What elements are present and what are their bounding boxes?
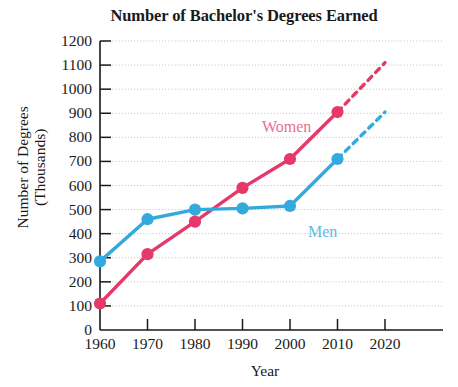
- series-projection-women: [338, 63, 386, 112]
- data-point-women: [189, 216, 201, 228]
- y-tick-label: 1200: [30, 33, 92, 49]
- data-point-women: [284, 153, 296, 165]
- x-tick-label: 2020: [355, 336, 415, 352]
- series-line-men: [100, 159, 338, 261]
- y-tick-label: 400: [30, 226, 92, 242]
- y-tick-label: 700: [30, 153, 92, 169]
- data-point-women: [331, 106, 343, 118]
- gridlines: [100, 41, 443, 306]
- y-tick-label: 200: [30, 274, 92, 290]
- series-label-men: Men: [308, 224, 337, 240]
- series-projection-men: [338, 112, 386, 159]
- data-point-women: [141, 248, 153, 260]
- data-point-men: [331, 153, 343, 165]
- y-tick-label: 800: [30, 129, 92, 145]
- data-point-women: [94, 297, 106, 309]
- data-point-men: [236, 202, 248, 214]
- y-tick-label: 100: [30, 298, 92, 314]
- data-point-men: [141, 213, 153, 225]
- data-point-women: [236, 182, 248, 194]
- y-tick-label: 1100: [30, 57, 92, 73]
- y-tick-label: 1000: [30, 81, 92, 97]
- chart-page: Number of Bachelor's Degrees Earned Numb…: [0, 0, 458, 387]
- data-point-men: [94, 255, 106, 267]
- y-tick-label: 300: [30, 250, 92, 266]
- y-tick-label: 600: [30, 178, 92, 194]
- data-point-men: [284, 200, 296, 212]
- data-point-men: [189, 203, 201, 215]
- series-label-women: Women: [262, 119, 311, 135]
- y-tick-label: 500: [30, 202, 92, 218]
- y-tick-label: 900: [30, 105, 92, 121]
